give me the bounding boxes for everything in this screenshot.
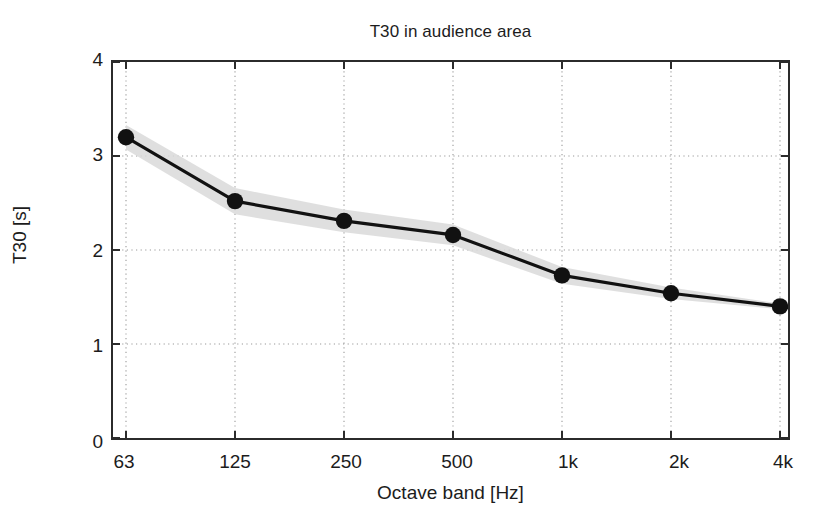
plot-svg <box>113 62 788 438</box>
data-markers <box>118 129 788 315</box>
x-tick-label-500: 500 <box>417 452 497 471</box>
x-tick-label-2k: 2k <box>639 452 719 471</box>
y-tick-label-4: 4 <box>59 50 103 69</box>
x-tick-label-4k: 4k <box>743 452 823 471</box>
x-tick-label-250: 250 <box>306 452 386 471</box>
x-axis-tick-labels: 63 125 250 500 1k 2k 4k <box>0 452 828 478</box>
plot-area <box>111 60 790 440</box>
data-point-250 <box>336 213 352 229</box>
data-line <box>126 137 780 306</box>
x-tick-label-125: 125 <box>195 452 275 471</box>
data-point-2k <box>663 285 679 301</box>
x-tick-label-63: 63 <box>84 452 164 471</box>
data-point-125 <box>227 193 243 209</box>
y-axis-label: T30 [s] <box>5 155 35 315</box>
data-point-500 <box>445 227 461 243</box>
y-tick-label-0: 0 <box>59 432 103 451</box>
y-tick-label-2: 2 <box>59 241 103 260</box>
data-point-63 <box>118 129 134 145</box>
y-tick-label-3: 3 <box>59 145 103 164</box>
y-axis-label-container: T30 [s] <box>5 155 35 315</box>
data-point-4k <box>772 298 788 314</box>
y-axis-tick-labels: 4 3 2 1 0 <box>55 0 103 516</box>
data-point-1k <box>554 267 570 283</box>
uncertainty-band <box>126 125 780 309</box>
chart-figure: T30 in audience area 4 3 2 1 0 63 125 25… <box>0 0 828 516</box>
x-tick-label-1k: 1k <box>528 452 608 471</box>
x-axis-label: Octave band [Hz] <box>111 482 790 504</box>
chart-title: T30 in audience area <box>111 22 790 42</box>
y-tick-label-1: 1 <box>59 336 103 355</box>
grid-lines <box>113 62 788 438</box>
